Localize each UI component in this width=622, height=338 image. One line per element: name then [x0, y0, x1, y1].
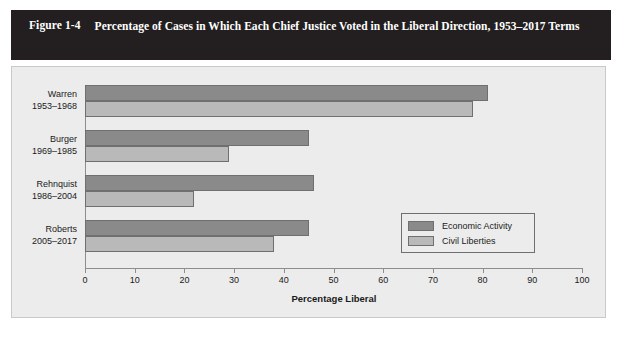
bar-group-burger	[85, 130, 582, 162]
category-years-warren: 1953–1968	[0, 101, 77, 113]
bar-burger-economic-activity	[85, 130, 309, 146]
x-tick-30	[234, 268, 235, 273]
category-name-warren: Warren	[0, 89, 77, 101]
legend-label-economic-activity: Economic Activity	[442, 221, 512, 231]
category-name-rehnquist: Rehnquist	[0, 179, 77, 191]
x-tick-label-0: 0	[82, 275, 87, 285]
x-tick-label-80: 80	[478, 275, 488, 285]
bar-warren-economic-activity	[85, 85, 488, 101]
figure-title-banner: Figure 1-4 Percentage of Cases in Which …	[11, 10, 611, 60]
x-tick-80	[483, 268, 484, 273]
x-tick-label-20: 20	[179, 275, 189, 285]
category-name-burger: Burger	[0, 134, 77, 146]
x-tick-label-10: 10	[130, 275, 140, 285]
bar-rehnquist-civil-liberties	[85, 191, 194, 207]
x-tick-10	[135, 268, 136, 273]
category-name-roberts: Roberts	[0, 224, 77, 236]
bar-warren-civil-liberties	[85, 101, 473, 117]
category-label-warren: Warren 1953–1968	[0, 89, 77, 112]
category-years-roberts: 2005–2017	[0, 236, 77, 248]
x-tick-label-100: 100	[574, 275, 589, 285]
x-tick-90	[532, 268, 533, 273]
x-tick-20	[184, 268, 185, 273]
x-tick-60	[383, 268, 384, 273]
x-tick-label-70: 70	[428, 275, 438, 285]
x-tick-label-90: 90	[527, 275, 537, 285]
x-axis-title: Percentage Liberal	[85, 293, 583, 304]
legend-item-economic-activity: Economic Activity	[408, 218, 528, 233]
legend-item-civil-liberties: Civil Liberties	[408, 233, 528, 248]
x-tick-100	[582, 268, 583, 273]
bar-group-rehnquist	[85, 175, 582, 207]
x-tick-0	[85, 268, 86, 273]
category-years-rehnquist: 1986–2004	[0, 191, 77, 203]
x-tick-label-30: 30	[229, 275, 239, 285]
category-label-burger: Burger 1969–1985	[0, 134, 77, 157]
category-labels: Warren 1953–1968 Burger 1969–1985 Rehnqu…	[0, 85, 77, 267]
figure-number: Figure 1-4	[29, 19, 81, 31]
bar-roberts-civil-liberties	[85, 236, 274, 252]
x-tick-50	[334, 268, 335, 273]
chart-legend: Economic Activity Civil Liberties	[401, 213, 535, 253]
x-tick-label-50: 50	[328, 275, 338, 285]
bar-group-warren	[85, 85, 582, 117]
x-tick-label-60: 60	[378, 275, 388, 285]
category-years-burger: 1969–1985	[0, 146, 77, 158]
bar-rehnquist-economic-activity	[85, 175, 314, 191]
category-label-rehnquist: Rehnquist 1986–2004	[0, 179, 77, 202]
legend-label-civil-liberties: Civil Liberties	[442, 236, 496, 246]
figure-title: Percentage of Cases in Which Each Chief …	[95, 19, 580, 34]
x-tick-40	[284, 268, 285, 273]
x-tick-label-40: 40	[279, 275, 289, 285]
bar-roberts-economic-activity	[85, 220, 309, 236]
category-label-roberts: Roberts 2005–2017	[0, 224, 77, 247]
chart-panel: Warren 1953–1968 Burger 1969–1985 Rehnqu…	[11, 66, 606, 318]
bar-burger-civil-liberties	[85, 146, 229, 162]
legend-swatch-economic-activity	[408, 221, 434, 231]
legend-swatch-civil-liberties	[408, 236, 434, 246]
x-tick-70	[433, 268, 434, 273]
